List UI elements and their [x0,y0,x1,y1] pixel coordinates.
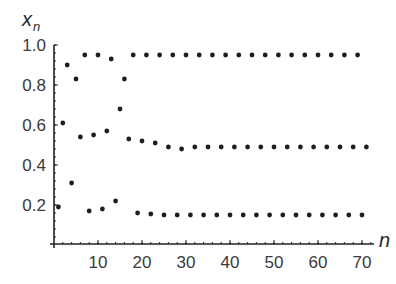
data-point [60,121,65,126]
data-point [113,199,118,204]
data-point [364,145,369,150]
data-point [131,53,136,58]
x-tick-label: 20 [133,253,152,272]
data-point [351,145,356,150]
x-tick-label: 70 [353,253,372,272]
data-point [355,53,360,58]
data-point [144,53,149,58]
data-point [272,145,277,150]
data-point [96,53,101,58]
data-point [307,213,312,218]
data-point [214,213,219,218]
data-point [263,53,268,58]
data-point [289,53,294,58]
data-point [148,212,153,217]
data-point [197,53,202,58]
data-point [285,145,290,150]
data-point [311,145,316,150]
x-tick-label: 30 [177,253,196,272]
data-point [78,135,83,140]
data-point [254,213,259,218]
data-point [245,145,250,150]
y-tick-label: 0.2 [22,196,46,215]
data-point [206,145,211,150]
data-point [56,205,61,210]
data-point [329,53,334,58]
x-tick-label: 40 [221,253,240,272]
data-point [188,213,193,218]
data-point [232,145,237,150]
data-point [342,53,347,58]
data-point [166,145,171,150]
data-point [294,213,299,218]
y-axis-tick-labels: 0.20.40.60.81.0 [22,36,46,215]
x-tick-label: 10 [89,253,108,272]
data-point [135,211,140,216]
data-point [69,181,74,186]
data-point [267,213,272,218]
data-point [276,53,281,58]
data-point [236,53,241,58]
y-tick-label: 0.6 [22,116,46,135]
data-points [56,53,369,218]
data-point [320,213,325,218]
data-point [153,141,158,146]
data-point [122,77,127,82]
data-point [82,53,87,58]
data-point [157,53,162,58]
data-point [175,213,180,218]
data-point [126,137,131,142]
data-point [228,213,233,218]
data-point [241,213,246,218]
y-tick-label: 0.8 [22,76,46,95]
scatter-chart: 0.20.40.60.81.0 10203040506070 x n n [0,0,396,284]
y-tick-label: 1.0 [22,36,46,55]
data-point [280,213,285,218]
data-point [179,147,184,152]
data-point [65,63,70,68]
data-point [192,145,197,150]
data-point [140,139,145,144]
data-point [109,57,114,62]
data-point [104,129,109,134]
data-point [346,213,351,218]
data-point [324,145,329,150]
data-point [258,145,263,150]
data-point [298,145,303,150]
data-point [333,213,338,218]
x-tick-label: 60 [309,253,328,272]
data-point [316,53,321,58]
data-point [201,213,206,218]
x-axis-tick-labels: 10203040506070 [89,253,372,272]
x-axis-label: n [379,229,390,251]
data-point [162,213,167,218]
data-point [223,53,228,58]
data-point [87,209,92,214]
data-point [170,53,175,58]
data-point [338,145,343,150]
data-point [74,77,79,82]
data-point [184,53,189,58]
data-point [91,133,96,138]
data-point [118,107,123,112]
y-axis-label-subscript: n [33,19,40,34]
y-tick-label: 0.4 [22,156,46,175]
data-point [360,213,365,218]
data-point [302,53,307,58]
x-tick-label: 50 [265,253,284,272]
data-point [250,53,255,58]
data-point [100,207,105,212]
data-point [219,145,224,150]
data-point [210,53,215,58]
y-axis-label: x [21,8,33,30]
